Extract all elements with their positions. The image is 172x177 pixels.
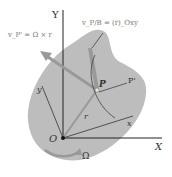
y-axis-label: Y bbox=[52, 10, 59, 20]
rotating-frame-diagram: Y X O P P' r x y Ω v_P/B = (ṙ)_Oxy v_P' … bbox=[0, 0, 172, 177]
y-body-label: y bbox=[37, 86, 42, 94]
origin-point bbox=[61, 136, 65, 140]
x-axis-label: X bbox=[155, 142, 162, 152]
x-body-label: x bbox=[127, 120, 132, 128]
omega-label: Ω bbox=[82, 152, 89, 161]
point-p-label: P bbox=[99, 80, 106, 89]
transport-velocity-label: v_P' = Ω × r bbox=[8, 32, 52, 39]
point-p-prime-label: P' bbox=[128, 77, 136, 85]
r-label: r bbox=[84, 113, 88, 121]
relative-velocity-label: v_P/B = (ṙ)_Oxy bbox=[82, 20, 138, 27]
origin-label: O bbox=[49, 134, 57, 144]
